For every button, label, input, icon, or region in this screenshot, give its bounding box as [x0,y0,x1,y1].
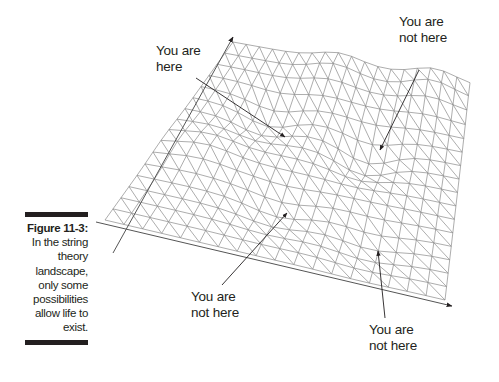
pointer-here [196,78,285,137]
label-not-here-top-right: You are not here [399,14,447,46]
label-not-here-bottom-center: You are not here [191,289,239,321]
label-line: You are [369,322,417,338]
caption-line: possibilities [25,292,88,306]
label-line: not here [369,338,417,354]
figure-number: Figure 11-3: [25,221,88,235]
label-line: You are [399,14,447,30]
label-line: here [156,59,201,75]
horizontal-axis [96,222,452,306]
caption-text: Figure 11-3: In the string theory landsc… [25,217,88,340]
caption-line: only some [25,278,88,292]
figure-caption: Figure 11-3: In the string theory landsc… [25,212,88,345]
label-line: not here [191,305,239,321]
caption-line: theory [25,249,88,263]
label-line: You are [156,43,201,59]
caption-line: In the string [25,235,88,249]
caption-line: landscape, [25,264,88,278]
label-line: You are [191,289,239,305]
label-line: not here [399,30,447,46]
landscape-mesh [105,42,470,300]
caption-bottom-rule [25,340,88,345]
pointer-not-here-bottom-right [378,251,385,318]
caption-line: exist. [25,320,88,334]
label-you-are-here: You are here [156,43,201,75]
caption-line: allow life to [25,306,88,320]
label-not-here-bottom-right: You are not here [369,322,417,354]
pointer-not-here-bottom-center [222,213,287,285]
